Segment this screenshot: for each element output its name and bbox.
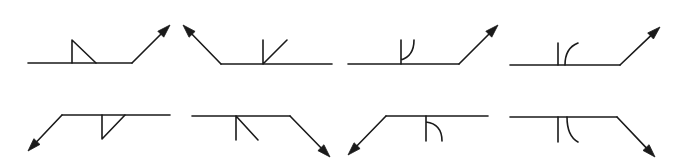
- arrow-line: [290, 116, 321, 148]
- bevel-weld-glyph: [236, 116, 258, 140]
- arrow-line: [357, 116, 386, 146]
- welding-symbols-diagram: [0, 0, 675, 165]
- weld-symbol-bevel-other-side: [183, 25, 332, 64]
- flare-bevel-weld-glyph: [558, 117, 578, 142]
- fillet-weld-glyph: [102, 115, 125, 139]
- weld-symbol-fillet-other-side: [28, 25, 170, 63]
- arrow-line: [132, 34, 161, 63]
- diagram-canvas: [0, 0, 675, 165]
- weld-symbol-flare-bevel-other-side: [510, 27, 660, 65]
- flare-bevel-weld-glyph: [558, 43, 578, 65]
- j-groove-weld-glyph: [401, 40, 414, 64]
- arrow-line: [37, 115, 62, 142]
- weld-symbol-flare-bevel-arrow-side: [510, 117, 655, 157]
- j-groove-weld-glyph: [426, 116, 442, 141]
- arrow-line: [617, 117, 646, 148]
- bevel-weld-glyph: [263, 40, 287, 64]
- arrow-line: [192, 34, 221, 64]
- fillet-weld-glyph: [72, 40, 96, 63]
- weld-symbol-j-groove-arrow-side: [348, 116, 488, 155]
- arrow-line: [459, 34, 489, 64]
- arrow-line: [620, 36, 651, 65]
- weld-symbol-bevel-arrow-side: [192, 116, 330, 157]
- weld-symbol-j-groove-other-side: [348, 25, 498, 64]
- weld-symbol-fillet-arrow-side: [28, 115, 170, 151]
